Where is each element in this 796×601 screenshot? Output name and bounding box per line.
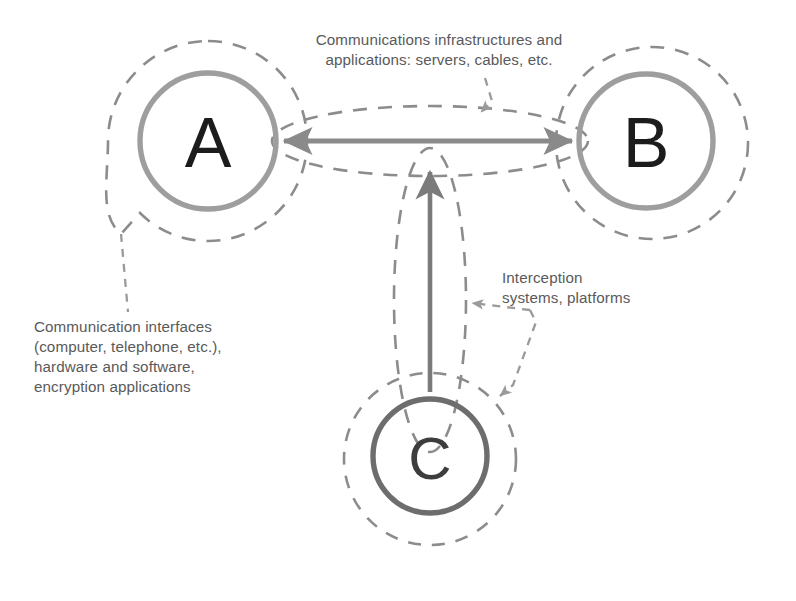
caption-interception-systems: Interception systems, platforms: [502, 268, 732, 308]
node-b-letter: B: [623, 104, 670, 182]
leader-interception-branch: [500, 310, 536, 396]
node-c-letter: C: [408, 425, 451, 492]
caption-communications-infrastructure: Communications infrastructures and appli…: [284, 30, 594, 70]
connection-arrows: [284, 141, 572, 392]
caption-communication-interfaces: Communication interfaces (computer, tele…: [34, 317, 314, 397]
leader-interfaces-line: [121, 234, 128, 312]
node-a-letter: A: [185, 104, 232, 182]
diagram-canvas: A B C Communications infrastructures and…: [0, 0, 796, 601]
